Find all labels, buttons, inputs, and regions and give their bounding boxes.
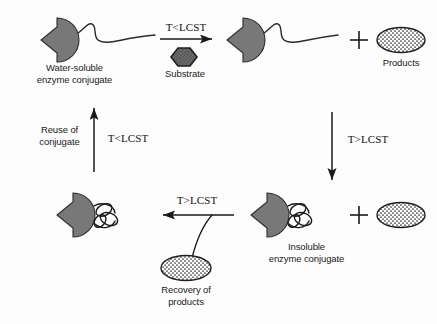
extended-polymer-chain-icon	[78, 24, 155, 43]
extended-polymer-chain-icon	[264, 24, 338, 43]
condition-bottom-arrow: T>LCST	[168, 194, 226, 206]
insoluble-enzyme-conjugate-shape	[251, 193, 314, 237]
condition-left-arrow: T<LCST	[100, 132, 156, 144]
recovery-products-ellipse-icon	[161, 256, 211, 281]
enzyme-body-icon	[251, 193, 289, 237]
plus-sign-top-icon	[350, 31, 368, 49]
plus-sign-bottom-icon	[350, 206, 368, 224]
recovered-conjugate-shape	[57, 193, 120, 237]
enzyme-body-icon	[41, 18, 79, 62]
diagram-canvas	[0, 0, 437, 324]
bottom-recovery-arrow	[163, 215, 234, 258]
label-insoluble-enzyme-conjugate: Insoluble enzyme conjugate	[245, 241, 368, 264]
label-products-top: Products	[371, 57, 431, 69]
enzyme-conjugate-product-state-shape	[227, 18, 338, 62]
label-reuse-of-conjugate: Reuse of conjugate	[32, 124, 87, 147]
collapsed-polymer-coil-icon	[286, 201, 314, 229]
recovery-branch-curve	[192, 215, 212, 258]
label-recovery-of-products: Recovery of products	[140, 284, 232, 307]
label-substrate: Substrate	[152, 68, 218, 80]
enzyme-body-icon	[227, 18, 265, 62]
substrate-hexagon-icon	[171, 48, 197, 66]
enzyme-conjugate-cycle-diagram: Water-soluble enzyme conjugate T<LCST Su…	[0, 0, 437, 324]
condition-right-arrow: T>LCST	[340, 133, 396, 145]
water-soluble-enzyme-conjugate-shape	[41, 18, 155, 62]
collapsed-polymer-coil-icon	[92, 201, 120, 229]
condition-top-arrow: T<LCST	[156, 21, 216, 33]
products-ellipse-top-icon	[377, 28, 425, 53]
label-water-soluble-enzyme-conjugate: Water-soluble enzyme conjugate	[12, 62, 137, 85]
products-ellipse-bottom-icon	[377, 203, 425, 228]
enzyme-body-icon	[57, 193, 95, 237]
